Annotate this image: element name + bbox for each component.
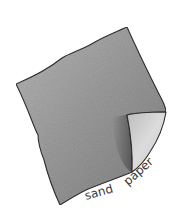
sandpaper-drawing: sand paper [0, 0, 176, 223]
sandpaper-illustration: sand paper [0, 0, 176, 223]
